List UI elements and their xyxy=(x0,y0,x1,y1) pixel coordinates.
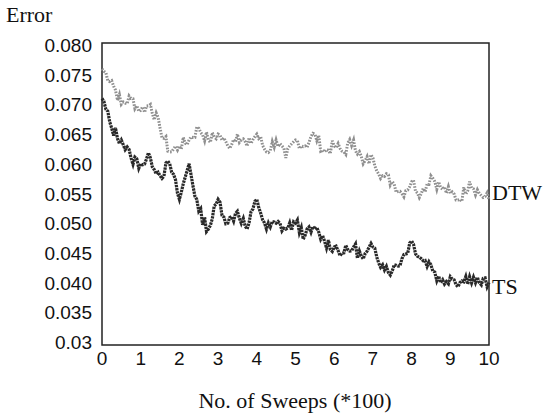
plot-frame xyxy=(102,43,489,345)
x-axis-title: No. of Sweeps (*100) xyxy=(0,388,557,414)
ts-series-label: TS xyxy=(492,276,518,298)
dtw-series-label: DTW xyxy=(492,182,542,204)
plot-area xyxy=(0,0,557,420)
